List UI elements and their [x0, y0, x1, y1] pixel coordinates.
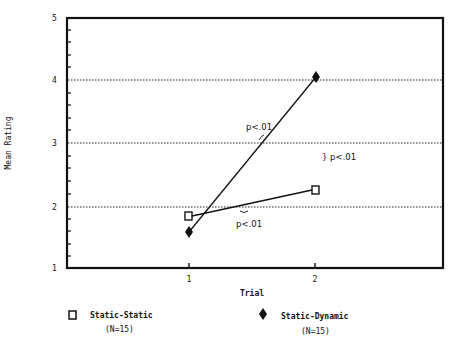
legend-n-static-dynamic: (N=15) [301, 327, 330, 336]
y-tick-labels: 5 4 3 2 1 [52, 14, 57, 273]
static-dynamic-line [189, 77, 316, 232]
x-axis-label: Trial [240, 288, 264, 298]
annotations: p<.01 p<.01 } p<.01 [236, 122, 356, 229]
annotation-static-slope: p<.01 [236, 219, 262, 229]
legend-square-icon [69, 311, 76, 319]
y-tick-4: 4 [52, 76, 57, 85]
annotation-group-diff: } p<.01 [322, 152, 356, 162]
series-static-static [185, 186, 319, 220]
legend: Static-Static (N=15) Static-Dynamic (N=1… [69, 308, 349, 336]
y-tick-1: 1 [52, 264, 57, 273]
annotation-dynamic-slope: p<.01 [246, 122, 272, 132]
static-static-line [192, 190, 312, 216]
y-tick-2: 2 [52, 203, 57, 212]
y-tick-5: 5 [52, 14, 57, 23]
legend-n-static-static: (N=15) [105, 325, 134, 334]
y-axis-label: Mean Rating [4, 116, 13, 169]
legend-diamond-icon [259, 308, 267, 320]
y-tick-3: 3 [52, 139, 57, 148]
legend-label-static-dynamic: Static-Dynamic [281, 311, 349, 321]
square-marker-icon [185, 212, 192, 220]
gridlines [68, 80, 442, 207]
x-tick-1: 1 [187, 275, 192, 284]
x-tick-2: 2 [313, 275, 318, 284]
square-marker-icon [312, 186, 319, 194]
line-chart: 5 4 3 2 1 Mean Rating 1 2 Trial p<.01 p<… [0, 0, 453, 347]
legend-label-static-static: Static-Static [90, 310, 153, 320]
bracket-icon [240, 211, 248, 213]
bracket-icon [259, 135, 264, 140]
